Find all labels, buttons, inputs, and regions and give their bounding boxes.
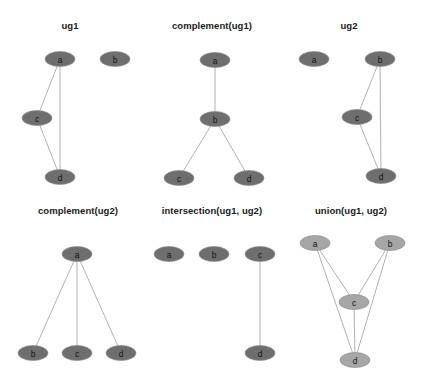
panel-title-complement_ug2: complement(ug2)	[38, 205, 118, 216]
node-label-a: a	[58, 55, 63, 65]
graph-node-c[interactable]: c	[164, 171, 194, 186]
node-label-d: d	[258, 349, 263, 359]
node-label-d: d	[119, 349, 124, 359]
panel-title-union_ug1_ug2: union(ug1, ug2)	[315, 205, 387, 216]
panel-title-intersection_ug1_ug2: intersection(ug1, ug2)	[162, 205, 262, 216]
node-label-a: a	[75, 250, 80, 260]
node-label-b: b	[213, 115, 218, 125]
panel-title-complement_ug1: complement(ug1)	[172, 20, 252, 31]
node-label-b: b	[113, 55, 118, 65]
node-label-a: a	[312, 55, 317, 65]
graph-node-c[interactable]: c	[342, 110, 372, 125]
graph-node-c[interactable]: c	[22, 111, 52, 126]
graph-figure: abcdug1abcdcomplement(ug1)abcdug2abcdcom…	[0, 0, 423, 385]
graph-node-b[interactable]: b	[18, 346, 48, 361]
graph-node-b[interactable]: b	[199, 247, 229, 262]
node-label-a: a	[213, 56, 218, 66]
node-label-b: b	[388, 239, 393, 249]
graph-node-c[interactable]: c	[245, 247, 275, 262]
graph-node-a[interactable]: a	[200, 53, 230, 68]
node-label-a: a	[313, 239, 318, 249]
graph-node-a[interactable]: a	[45, 52, 75, 67]
node-label-d: d	[353, 356, 358, 366]
graph-node-d[interactable]: d	[234, 171, 264, 186]
graph-node-d[interactable]: d	[340, 353, 370, 368]
graph-node-a[interactable]: a	[299, 52, 329, 67]
node-label-b: b	[31, 349, 36, 359]
graph-node-d[interactable]: d	[245, 346, 275, 361]
graph-node-b[interactable]: b	[375, 236, 405, 251]
graph-node-d[interactable]: d	[366, 169, 396, 184]
node-label-d: d	[379, 172, 384, 182]
graph-node-a[interactable]: a	[300, 236, 330, 251]
node-label-b: b	[378, 55, 383, 65]
graph-node-d[interactable]: d	[106, 346, 136, 361]
graph-node-b[interactable]: b	[200, 112, 230, 127]
node-label-a: a	[167, 250, 172, 260]
graph-node-c[interactable]: c	[62, 346, 92, 361]
node-label-d: d	[58, 173, 63, 183]
graph-node-a[interactable]: a	[154, 247, 184, 262]
node-label-d: d	[247, 174, 252, 184]
graph-node-c[interactable]: c	[339, 295, 369, 310]
panel-title-ug2: ug2	[340, 20, 357, 31]
graph-node-b[interactable]: b	[365, 52, 395, 67]
graph-node-b[interactable]: b	[100, 52, 130, 67]
node-label-b: b	[212, 250, 217, 260]
graph-node-d[interactable]: d	[45, 170, 75, 185]
panel-title-ug1: ug1	[61, 20, 79, 31]
graph-node-a[interactable]: a	[62, 247, 92, 262]
